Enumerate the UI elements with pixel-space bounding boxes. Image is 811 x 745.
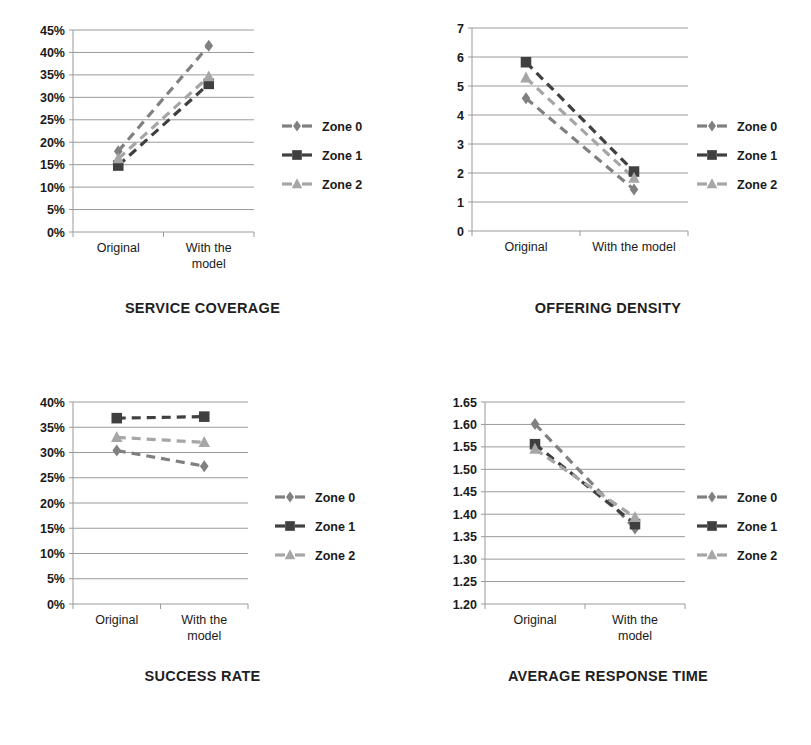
data-point-marker	[521, 57, 532, 68]
y-tick-label: 1.20	[453, 598, 477, 612]
legend-item-zone-1: Zone 1	[282, 149, 362, 163]
data-point-marker	[520, 72, 532, 83]
chart-plot-service-coverage: 0%5%10%15%20%25%30%35%40%45%OriginalWith…	[0, 5, 405, 310]
x-category-label: Original	[97, 241, 140, 255]
y-tick-label: 40%	[40, 46, 65, 60]
x-category-label: With the	[181, 613, 227, 627]
y-tick-label: 30%	[40, 446, 65, 460]
legend-label: Zone 1	[315, 520, 355, 534]
legend-marker	[707, 150, 717, 160]
legend-marker	[707, 521, 717, 531]
y-tick-label: 1.45	[453, 485, 477, 499]
y-tick-label: 0%	[47, 598, 65, 612]
chart-canvas-average-response-time: 1.201.251.301.351.401.451.501.551.601.65…	[405, 380, 811, 685]
y-tick-label: 1.35	[453, 530, 477, 544]
legend-label: Zone 0	[737, 491, 777, 505]
y-tick-label: 7	[457, 22, 464, 36]
x-category-label: With the	[612, 613, 658, 627]
legend-label: Zone 2	[737, 178, 777, 192]
series-line-zone-0	[118, 46, 209, 151]
legend-marker	[708, 492, 716, 503]
y-tick-label: 10%	[40, 181, 65, 195]
series-line-zone-2	[118, 77, 209, 159]
y-tick-label: 35%	[40, 421, 65, 435]
y-tick-label: 30%	[40, 91, 65, 105]
data-point-marker	[629, 511, 641, 522]
y-tick-label: 20%	[40, 136, 65, 150]
legend-label: Zone 2	[322, 178, 362, 192]
y-tick-label: 1	[457, 196, 464, 210]
legend-item-zone-2: Zone 2	[697, 549, 777, 563]
y-tick-label: 10%	[40, 547, 65, 561]
y-tick-label: 15%	[40, 158, 65, 172]
legend-item-zone-0: Zone 0	[275, 491, 355, 505]
y-tick-label: 3	[457, 138, 464, 152]
x-category-label: Original	[513, 613, 556, 627]
legend-label: Zone 0	[737, 120, 777, 134]
legend-label: Zone 0	[322, 120, 362, 134]
chart-panel-service-coverage: 0%5%10%15%20%25%30%35%40%45%OriginalWith…	[0, 0, 405, 372]
chart-title-offering-density: OFFERING DENSITY	[405, 300, 811, 316]
data-point-marker	[112, 444, 121, 456]
legend-marker	[286, 492, 294, 503]
x-category-label-line2: model	[187, 629, 221, 643]
data-point-marker	[200, 460, 209, 472]
x-category-label: With the	[186, 241, 232, 255]
y-tick-label: 1.55	[453, 440, 477, 454]
legend-item-zone-0: Zone 0	[697, 120, 777, 134]
series-line-zone-1	[117, 417, 205, 419]
legend-item-zone-1: Zone 1	[275, 520, 355, 534]
charts-grid: 0%5%10%15%20%25%30%35%40%45%OriginalWith…	[0, 0, 811, 745]
y-tick-label: 25%	[40, 113, 65, 127]
chart-panel-success-rate: 0%5%10%15%20%25%30%35%40%OriginalWith th…	[0, 372, 405, 745]
x-category-label: Original	[95, 613, 138, 627]
legend-marker	[292, 150, 302, 160]
y-tick-label: 5	[457, 80, 464, 94]
x-category-label-line2: model	[192, 257, 226, 271]
series-line-zone-2	[535, 449, 635, 517]
y-tick-label: 1.60	[453, 418, 477, 432]
y-tick-label: 40%	[40, 396, 65, 410]
y-tick-label: 0	[457, 225, 464, 239]
chart-plot-offering-density: 01234567OriginalWith the modelZone 0Zone…	[405, 5, 811, 310]
legend-label: Zone 2	[315, 549, 355, 563]
y-tick-label: 6	[457, 51, 464, 65]
legend-marker	[285, 521, 295, 531]
series-line-zone-2	[526, 78, 634, 178]
y-tick-label: 1.65	[453, 396, 477, 410]
legend-item-zone-0: Zone 0	[697, 491, 777, 505]
legend-label: Zone 1	[737, 520, 777, 534]
legend-marker	[708, 121, 716, 132]
data-point-marker	[111, 413, 122, 424]
y-tick-label: 45%	[40, 24, 65, 38]
legend-marker	[293, 121, 301, 132]
legend-item-zone-1: Zone 1	[697, 149, 777, 163]
data-point-marker	[204, 40, 213, 52]
series-line-zone-1	[118, 84, 209, 166]
data-point-marker	[199, 411, 210, 422]
legend-marker	[707, 178, 718, 188]
y-tick-label: 1.30	[453, 553, 477, 567]
chart-title-average-response-time: AVERAGE RESPONSE TIME	[405, 668, 811, 684]
legend-item-zone-2: Zone 2	[282, 178, 362, 192]
legend-item-zone-1: Zone 1	[697, 520, 777, 534]
y-tick-label: 1.40	[453, 508, 477, 522]
chart-panel-offering-density: 01234567OriginalWith the modelZone 0Zone…	[405, 0, 811, 372]
y-tick-label: 25%	[40, 471, 65, 485]
chart-canvas-service-coverage: 0%5%10%15%20%25%30%35%40%45%OriginalWith…	[0, 5, 405, 310]
y-tick-label: 35%	[40, 68, 65, 82]
y-tick-label: 15%	[40, 522, 65, 536]
legend-item-zone-0: Zone 0	[282, 120, 362, 134]
legend-item-zone-2: Zone 2	[697, 178, 777, 192]
chart-plot-average-response-time: 1.201.251.301.351.401.451.501.551.601.65…	[405, 380, 811, 685]
y-tick-label: 0%	[47, 226, 65, 240]
chart-canvas-success-rate: 0%5%10%15%20%25%30%35%40%OriginalWith th…	[0, 380, 405, 685]
y-tick-label: 2	[457, 167, 464, 181]
legend-label: Zone 1	[322, 149, 362, 163]
y-tick-label: 1.25	[453, 575, 477, 589]
legend-marker	[707, 549, 718, 559]
legend-label: Zone 0	[315, 491, 355, 505]
series-line-zone-1	[526, 62, 634, 171]
series-line-zone-2	[117, 437, 205, 442]
x-category-label-line2: model	[618, 629, 652, 643]
